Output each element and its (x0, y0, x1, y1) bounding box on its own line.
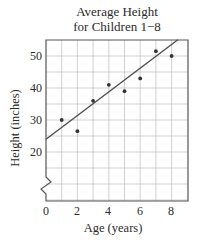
chart-canvas: Average Height for Children 1−8 50 40 30… (0, 0, 199, 245)
data-point (138, 77, 142, 81)
x-axis-label: Age (years) (84, 221, 143, 235)
x-tick-0: 0 (43, 204, 49, 218)
data-point (76, 129, 80, 133)
x-tick-6: 6 (137, 204, 143, 218)
x-tick-2: 2 (74, 204, 80, 218)
y-tick-50: 50 (30, 49, 42, 63)
chart-title-line1: Average Height (76, 4, 158, 19)
data-point (123, 89, 127, 93)
data-point (107, 83, 111, 87)
x-tick-8: 8 (168, 204, 174, 218)
data-point (60, 118, 64, 122)
grid (46, 40, 188, 201)
data-point (91, 99, 95, 103)
y-tick-40: 40 (30, 81, 42, 95)
data-points (60, 49, 174, 133)
y-tick-30: 30 (30, 113, 42, 127)
chart-title-line2: for Children 1−8 (73, 19, 160, 34)
data-point (154, 49, 158, 53)
trend-line (46, 40, 178, 139)
x-tick-4: 4 (105, 204, 111, 218)
y-tick-20: 20 (30, 145, 42, 159)
data-point (170, 54, 174, 58)
y-axis-label: Height (inches) (8, 89, 22, 166)
